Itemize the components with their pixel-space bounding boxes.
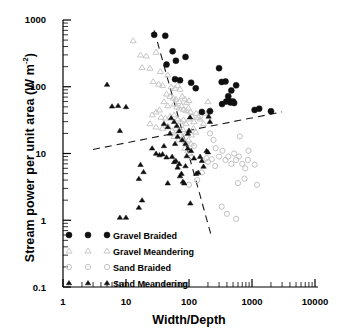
data-point-sand-braided (245, 157, 250, 162)
data-point-gravel-braided (170, 48, 176, 54)
data-point-sand-braided (226, 154, 231, 159)
legend-markers (66, 232, 110, 285)
data-point-gravel-braided (183, 54, 189, 60)
data-point-sand-meandering (160, 152, 165, 156)
legend-marker-sand-braided (104, 264, 109, 269)
data-point-gravel-meandering (147, 65, 153, 70)
data-point-sand-braided (234, 157, 239, 162)
data-point-gravel-braided (173, 58, 179, 64)
data-point-sand-braided (252, 162, 257, 167)
legend-marker-gravel-braided (104, 232, 110, 238)
data-point-sand-meandering (104, 82, 109, 86)
data-point-sand-meandering (115, 103, 120, 107)
data-point-sand-braided (186, 182, 191, 187)
data-point-gravel-meandering (157, 69, 163, 74)
data-point-gravel-meandering (139, 65, 145, 70)
data-point-sand-meandering (109, 104, 114, 108)
data-point-gravel-braided (199, 109, 205, 115)
data-point-sand-braided (195, 177, 200, 182)
data-point-sand-meandering (161, 121, 166, 125)
stream-power-scatter-figure: Stream power per unit area (W m-2) Width… (0, 0, 340, 334)
data-point-gravel-braided (233, 82, 239, 88)
data-point-sand-meandering (206, 114, 211, 118)
data-point-sand-braided (229, 161, 234, 166)
series-gravel-meandering (130, 38, 214, 156)
data-point-gravel-braided (228, 87, 234, 93)
data-point-sand-braided (232, 151, 237, 156)
data-point-gravel-braided (219, 101, 225, 107)
data-point-gravel-braided (207, 108, 213, 114)
legend-marker-sand-meandering (66, 280, 71, 284)
data-point-sand-braided (216, 154, 221, 159)
y-axis-ticks (63, 20, 71, 287)
data-point-gravel-braided (151, 32, 157, 38)
data-point-gravel-braided (188, 80, 194, 86)
data-point-sand-braided (219, 204, 224, 209)
data-point-gravel-meandering (161, 99, 167, 104)
series-gravel-braided (151, 32, 274, 115)
data-point-gravel-meandering (165, 72, 171, 77)
data-point-sand-meandering (139, 198, 144, 202)
data-point-sand-braided (237, 134, 242, 139)
series-sand-braided (186, 114, 259, 222)
data-point-gravel-braided (216, 65, 222, 71)
data-point-gravel-braided (223, 78, 229, 84)
legend-marker-sand-meandering (104, 280, 109, 284)
data-point-sand-meandering (207, 119, 212, 123)
data-point-sand-meandering (179, 171, 184, 175)
data-point-sand-braided (235, 181, 240, 186)
data-point-sand-meandering (117, 215, 122, 219)
data-point-sand-braided (236, 154, 241, 159)
data-point-sand-meandering (117, 128, 122, 132)
data-point-gravel-meandering (205, 99, 211, 104)
data-point-gravel-meandering (143, 53, 149, 58)
data-point-sand-braided (243, 166, 248, 171)
data-point-sand-meandering (149, 146, 154, 150)
data-point-sand-meandering (188, 201, 193, 205)
data-point-sand-meandering (123, 215, 128, 219)
legend-marker-gravel-meandering (66, 248, 72, 253)
data-point-sand-braided (223, 157, 228, 162)
x-axis-ticks (63, 279, 315, 287)
trend-line-steep-falling-dashed (154, 30, 212, 237)
data-point-sand-braided (254, 182, 259, 187)
data-point-sand-meandering (138, 162, 143, 166)
data-point-sand-meandering (123, 104, 128, 108)
legend-marker-sand-braided (85, 264, 90, 269)
data-point-gravel-braided (193, 85, 199, 91)
data-point-gravel-meandering (153, 124, 159, 129)
data-point-gravel-braided (231, 100, 237, 106)
plot-canvas (0, 0, 340, 334)
data-point-sand-meandering (165, 181, 170, 185)
data-point-gravel-meandering (153, 49, 159, 54)
data-point-gravel-braided (162, 33, 168, 39)
data-point-gravel-meandering (147, 121, 153, 126)
data-point-sand-braided (213, 163, 218, 168)
legend-marker-gravel-braided (85, 232, 91, 238)
data-point-sand-braided (207, 131, 212, 136)
data-point-sand-meandering (141, 169, 146, 173)
data-point-sand-braided (209, 157, 214, 162)
data-point-sand-meandering (191, 156, 196, 160)
data-point-sand-meandering (201, 164, 206, 168)
data-point-gravel-meandering (200, 121, 206, 126)
data-point-gravel-meandering (150, 79, 156, 84)
data-point-gravel-meandering (130, 38, 136, 43)
legend-marker-gravel-meandering (104, 248, 110, 253)
data-point-sand-braided (246, 148, 251, 153)
series-sand-meandering (104, 82, 212, 219)
data-point-sand-meandering (197, 154, 202, 158)
data-point-sand-braided (242, 176, 247, 181)
data-point-gravel-braided (177, 77, 183, 83)
data-point-gravel-braided (268, 108, 274, 114)
data-point-gravel-braided (164, 62, 170, 68)
data-point-sand-braided (213, 146, 218, 151)
data-point-gravel-meandering (171, 112, 177, 117)
legend-marker-gravel-braided (66, 232, 72, 238)
data-point-sand-meandering (169, 154, 174, 158)
data-point-gravel-braided (256, 106, 262, 112)
data-point-sand-meandering (161, 143, 166, 147)
data-point-sand-braided (224, 211, 229, 216)
data-point-sand-braided (211, 137, 216, 142)
data-point-sand-meandering (136, 205, 141, 209)
